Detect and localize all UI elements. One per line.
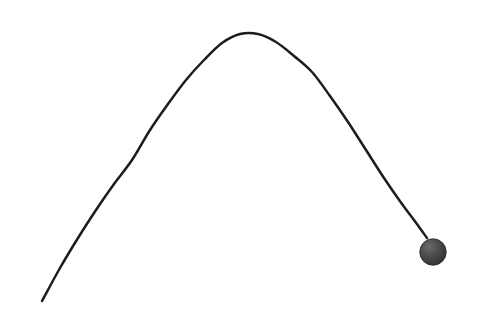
trajectory-svg [0, 0, 480, 320]
trajectory-canvas [0, 0, 480, 320]
background-rect [0, 0, 480, 320]
projectile-ball [420, 239, 447, 266]
